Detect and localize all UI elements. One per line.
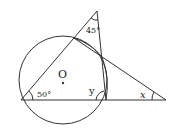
label-center: O [58,68,67,81]
angle-arc-x [152,92,154,100]
secant-line [74,38,166,100]
center-point [62,82,64,84]
angle-arc-50 [29,91,33,100]
label-angle-y: y [88,85,95,96]
left-side-line [21,11,97,100]
label-angle-50: 50° [37,90,51,99]
geometry-diagram: O 50° 45° y x [0,0,179,134]
apex-down-line [97,11,106,100]
label-angle-45: 45° [86,26,100,35]
angle-arc-45 [91,18,98,20]
label-angle-x: x [140,89,146,100]
